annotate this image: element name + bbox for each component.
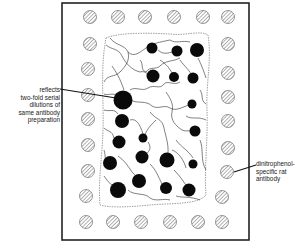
- annotation-line: specific rat: [256, 168, 308, 176]
- antibody-well: [222, 91, 235, 104]
- annotation-line: two-fold serial: [0, 94, 60, 102]
- antibody-well: [80, 190, 93, 203]
- antibody-well: [222, 67, 235, 80]
- precipitin-spot: [183, 184, 196, 197]
- precipitin-spot: [188, 73, 199, 84]
- precipitin-spot: [103, 156, 117, 170]
- antibody-well: [222, 11, 235, 24]
- precipitin-spot: [115, 114, 129, 128]
- annotation-line: same antibody: [0, 109, 60, 117]
- precipitin-spot: [188, 100, 197, 109]
- antibody-well: [216, 191, 229, 204]
- precipitin-spot: [172, 46, 183, 57]
- gel-plate-diagram: [0, 0, 308, 248]
- antibody-well: [135, 216, 148, 229]
- antibody-well: [82, 63, 95, 76]
- antibody-well: [164, 216, 177, 229]
- precipitin-spot: [147, 70, 160, 83]
- precipitin-spot: [147, 43, 158, 54]
- antibody-well: [84, 11, 97, 24]
- precipitin-spot: [160, 182, 172, 194]
- antibody-well: [82, 89, 95, 102]
- annotation-line: dilutions of: [0, 101, 60, 109]
- precipitin-spot: [160, 153, 175, 168]
- antibody-well: [192, 216, 205, 229]
- precipitin-spot: [132, 174, 146, 188]
- annotation-dnp-antibody: dinitrophenol- specific rat antibody: [256, 160, 308, 183]
- annotation-line: reflects: [0, 86, 60, 94]
- antibody-well: [82, 113, 95, 126]
- antibody-well: [222, 115, 235, 128]
- precipitin-spot: [189, 160, 198, 169]
- antibody-well: [168, 11, 181, 24]
- antibody-well: [112, 11, 125, 24]
- annotation-line: preparation: [0, 116, 60, 124]
- annotation-serial-dilutions: reflects two-fold serial dilutions of sa…: [0, 86, 60, 124]
- antibody-well: [80, 216, 93, 229]
- antibody-well: [107, 216, 120, 229]
- antibody-well: [82, 139, 95, 152]
- precipitin-spot: [139, 134, 148, 143]
- antibody-well: [222, 142, 235, 155]
- antibody-well: [84, 38, 97, 51]
- immunodiffusion-figure: reflects two-fold serial dilutions of sa…: [0, 0, 308, 248]
- precipitin-spot: [169, 72, 179, 82]
- precipitin-spot: [190, 43, 204, 57]
- antibody-well: [82, 165, 95, 178]
- precipitin-spot: [114, 91, 133, 110]
- antibody-well: [139, 11, 152, 24]
- antibody-well: [221, 166, 234, 179]
- antibody-well: [197, 11, 210, 24]
- precipitin-spot: [113, 136, 126, 149]
- precipitin-spot: [136, 151, 149, 164]
- precipitin-spot: [110, 182, 126, 198]
- annotation-line: dinitrophenol-: [256, 160, 308, 168]
- antibody-well: [222, 38, 235, 51]
- antibody-well: [216, 216, 229, 229]
- annotation-line: antibody: [256, 175, 308, 183]
- precipitin-spot: [190, 126, 201, 137]
